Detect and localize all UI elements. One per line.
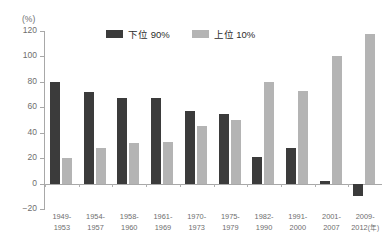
x-label-start-year: 1975-: [221, 212, 240, 221]
bar-lower90[interactable]: [320, 181, 330, 184]
x-tick-mark: [247, 184, 248, 187]
x-tick-mark: [348, 184, 349, 187]
bar-upper10[interactable]: [163, 142, 173, 184]
x-label-end-year: 1969: [146, 223, 180, 234]
x-label-start-year: 1970-: [187, 212, 206, 221]
bar-group: [79, 31, 113, 209]
bar-lower90[interactable]: [219, 114, 229, 184]
x-axis-label: 2001-2007: [315, 212, 349, 233]
bar-upper10[interactable]: [264, 82, 274, 184]
x-label-end-year: 2007: [315, 223, 349, 234]
y-tick-label: 20: [28, 152, 37, 162]
bar-upper10[interactable]: [129, 143, 139, 184]
x-axis-label: 2009-2012(年): [348, 212, 382, 233]
x-tick-mark: [315, 184, 316, 187]
bar-upper10[interactable]: [231, 120, 241, 184]
y-tick-mark: [40, 209, 45, 210]
bar-group: [45, 31, 79, 209]
bar-group: [247, 31, 281, 209]
x-label-start-year: 1991-: [288, 212, 307, 221]
x-label-end-year: 1979: [214, 223, 248, 234]
x-axis-label: 1958-1960: [112, 212, 146, 233]
bar-lower90[interactable]: [252, 157, 262, 184]
x-tick-mark: [180, 184, 181, 187]
x-label-end-year: 1960: [112, 223, 146, 234]
y-tick-label: 0: [32, 178, 37, 188]
plot-area: 120100806040200−20: [44, 31, 382, 209]
bar-group: [112, 31, 146, 209]
bar-group: [348, 31, 382, 209]
bar-group: [146, 31, 180, 209]
x-label-start-year: 1949-: [52, 212, 71, 221]
y-tick-label: 40: [28, 127, 37, 137]
x-axis-label: 1954-1957: [79, 212, 113, 233]
y-tick-label: 100: [23, 50, 37, 60]
bar-upper10[interactable]: [365, 34, 375, 184]
y-tick-label: 60: [28, 101, 37, 111]
x-tick-mark: [45, 184, 46, 187]
bar-upper10[interactable]: [332, 56, 342, 183]
x-tick-mark: [281, 184, 282, 187]
y-tick-label: 120: [23, 25, 37, 35]
bar-group: [180, 31, 214, 209]
bar-group: [281, 31, 315, 209]
bar-group: [315, 31, 349, 209]
bar-group: [214, 31, 248, 209]
bar-lower90[interactable]: [353, 184, 363, 197]
x-axis-labels: 1949-19531954-19571958-19601961-19691970…: [45, 212, 382, 233]
x-axis-unit-suffix: (年): [368, 224, 379, 231]
x-label-start-year: 2009-: [356, 212, 375, 221]
y-tick-label: 80: [28, 76, 37, 86]
x-axis-label: 1949-1953: [45, 212, 79, 233]
x-label-start-year: 1954-: [86, 212, 105, 221]
x-label-start-year: 2001-: [322, 212, 341, 221]
bar-lower90[interactable]: [286, 148, 296, 184]
x-tick-mark: [79, 184, 80, 187]
x-tick-mark: [146, 184, 147, 187]
y-axis-unit-label: (%): [22, 14, 35, 24]
bar-upper10[interactable]: [62, 158, 72, 183]
y-tick-label: −20: [23, 203, 37, 213]
x-axis-label: 1975-1979: [214, 212, 248, 233]
x-axis-label: 1961-1969: [146, 212, 180, 233]
bar-lower90[interactable]: [50, 82, 60, 184]
x-axis-label: 1991-2000: [281, 212, 315, 233]
bar-upper10[interactable]: [298, 91, 308, 184]
bar-chart: (%) 下位 90% 上位 10% 120100806040200−20 194…: [0, 0, 390, 247]
x-label-end-year: 1957: [79, 223, 113, 234]
x-label-end-year: 2012(年): [348, 223, 382, 234]
x-label-start-year: 1958-: [120, 212, 139, 221]
bar-lower90[interactable]: [84, 92, 94, 184]
bar-upper10[interactable]: [197, 126, 207, 183]
x-label-end-year: 1990: [247, 223, 281, 234]
bar-lower90[interactable]: [117, 98, 127, 183]
x-axis-label: 1982-1990: [247, 212, 281, 233]
bar-lower90[interactable]: [185, 111, 195, 183]
x-tick-mark: [214, 184, 215, 187]
x-label-end-year: 2000: [281, 223, 315, 234]
x-label-start-year: 1961-: [154, 212, 173, 221]
bar-groups: [45, 31, 382, 209]
bar-upper10[interactable]: [96, 148, 106, 184]
x-axis-label: 1970-1973: [180, 212, 214, 233]
x-label-end-year: 1973: [180, 223, 214, 234]
x-label-end-year: 1953: [45, 223, 79, 234]
x-tick-mark: [112, 184, 113, 187]
x-label-start-year: 1982-: [255, 212, 274, 221]
bar-lower90[interactable]: [151, 98, 161, 183]
